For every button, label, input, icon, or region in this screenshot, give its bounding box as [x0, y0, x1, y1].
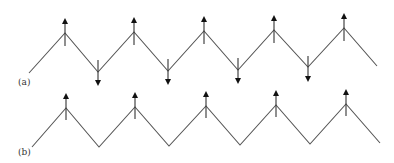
spin-up-arrow-icon: [63, 93, 69, 120]
spin-down-arrow-icon: [235, 58, 241, 84]
spin-up-arrow-icon: [201, 16, 207, 44]
spin-up-arrow-icon: [271, 15, 277, 43]
spin-up-arrow-icon: [131, 17, 137, 45]
zigzag-chain-a: [29, 28, 377, 73]
panel-b: (b): [18, 89, 380, 157]
spin-up-arrow-icon: [62, 18, 68, 46]
spin-up-arrow-icon: [273, 90, 279, 117]
spin-up-arrow-icon: [132, 92, 138, 119]
spin-arrows-a: [62, 13, 347, 86]
panel-a: (a): [18, 13, 377, 87]
spin-chain-diagram: (a) (b): [0, 0, 394, 163]
spin-up-arrow-icon: [341, 13, 347, 41]
panel-label-a: (a): [18, 77, 30, 87]
spin-up-arrow-icon: [343, 89, 349, 116]
spin-down-arrow-icon: [305, 56, 311, 82]
panel-label-b: (b): [18, 147, 31, 157]
spin-down-arrow-icon: [95, 60, 101, 86]
spin-arrows-b: [63, 89, 349, 120]
spin-down-arrow-icon: [165, 59, 171, 85]
spin-up-arrow-icon: [203, 91, 209, 118]
